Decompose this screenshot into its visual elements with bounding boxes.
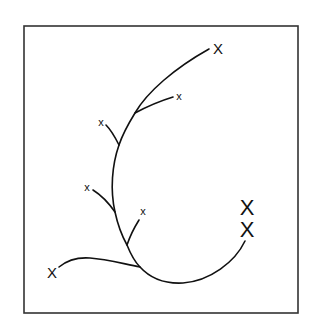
mark-upper-left-branch: x: [98, 116, 104, 128]
mark-upper-right-branch: x: [176, 90, 182, 102]
mark-bottom-left-tip: X: [47, 264, 57, 281]
mark-mid-right-branch: x: [140, 205, 146, 217]
mark-right-tip-lower: X: [240, 217, 255, 242]
diagram-frame: [24, 26, 298, 313]
branching-diagram: X x x x x X X X: [0, 0, 314, 330]
mark-mid-left-branch: x: [84, 181, 90, 193]
mark-top-tip: X: [213, 40, 223, 57]
